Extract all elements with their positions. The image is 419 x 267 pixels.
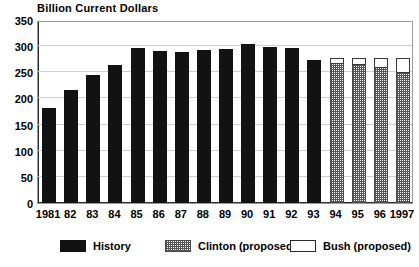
y-axis-tick-label: 250 <box>0 68 37 79</box>
chart-legend: HistoryClinton (proposed)Bush (proposed) <box>0 238 419 260</box>
bar-segment-history <box>108 65 122 203</box>
legend-swatch-clinton-icon <box>165 240 191 252</box>
bar-column <box>175 21 189 203</box>
x-axis-tick-label: 1997 <box>382 208 419 221</box>
y-axis-labels: 050100150200250300350 <box>0 21 33 204</box>
bar-segment-clinton <box>352 64 366 203</box>
bar-segment-clinton <box>374 67 388 203</box>
bar-segment-history <box>64 90 78 203</box>
legend-swatch-history-icon <box>60 240 86 252</box>
bar-column <box>307 21 321 203</box>
chart-title: Billion Current Dollars <box>37 2 158 14</box>
bar-column <box>64 21 78 203</box>
bar-column <box>86 21 100 203</box>
y-axis-tick-label: 100 <box>0 147 37 158</box>
bar-segment-bush <box>352 58 366 65</box>
bar-segment-history <box>307 60 321 203</box>
bar-segment-bush <box>330 58 344 65</box>
bar-column <box>131 21 145 203</box>
bar-column <box>330 21 344 203</box>
x-axis-labels: 19818283848586878889909192939495961997 <box>37 208 413 224</box>
legend-label: Bush (proposed) <box>323 240 411 252</box>
bar-segment-bush <box>396 58 410 73</box>
y-axis-tick-label: 350 <box>0 16 37 27</box>
y-axis-tick-label: 300 <box>0 42 37 53</box>
bar-column <box>108 21 122 203</box>
bar-segment-history <box>285 48 299 203</box>
legend-item: History <box>60 238 131 254</box>
bar-column <box>153 21 167 203</box>
chart-container: Billion Current Dollars 0501001502002503… <box>0 0 419 267</box>
bar-column <box>42 21 56 203</box>
plot-area <box>37 21 413 204</box>
bar-segment-history <box>131 48 145 203</box>
bar-column <box>263 21 277 203</box>
legend-label: Clinton (proposed) <box>198 240 296 252</box>
legend-swatch-bush-icon <box>290 240 316 252</box>
bar-segment-history <box>175 52 189 203</box>
bar-segment-history <box>86 75 100 203</box>
bar-column <box>197 21 211 203</box>
bar-column <box>352 21 366 203</box>
bar-segment-bush <box>374 58 388 67</box>
bar-segment-history <box>263 47 277 203</box>
bar-segment-clinton <box>396 72 410 203</box>
bar-segment-history <box>241 44 255 203</box>
bar-segment-history <box>219 49 233 203</box>
y-axis-tick-label: 200 <box>0 94 37 105</box>
bar-column <box>396 21 410 203</box>
bar-segment-history <box>153 51 167 203</box>
y-axis-tick-label: 50 <box>0 173 37 184</box>
bar-column <box>374 21 388 203</box>
bar-column <box>241 21 255 203</box>
legend-label: History <box>93 240 131 252</box>
legend-item: Bush (proposed) <box>290 238 411 254</box>
bar-column <box>219 21 233 203</box>
y-axis-tick-label: 150 <box>0 121 37 132</box>
bar-column <box>285 21 299 203</box>
bar-segment-history <box>42 108 56 203</box>
legend-item: Clinton (proposed) <box>165 238 296 254</box>
bar-segment-clinton <box>330 63 344 203</box>
bar-segment-history <box>197 50 211 203</box>
